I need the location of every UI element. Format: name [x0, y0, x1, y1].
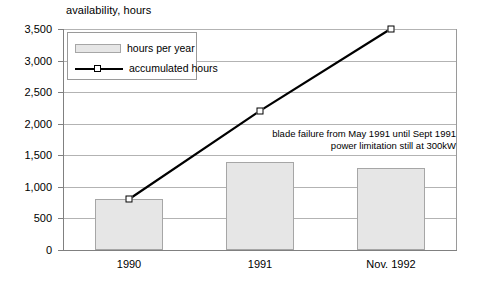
chart-legend: hours per year accumulated hours	[67, 32, 197, 80]
plot-left-axis-line	[63, 29, 64, 251]
legend-swatch-icon	[75, 44, 121, 53]
y-axis-tick-label: 1,000	[4, 181, 52, 193]
bar	[226, 162, 294, 250]
legend-square-marker-icon	[94, 65, 101, 72]
bar	[357, 168, 425, 250]
plot-bottom-axis-line	[63, 250, 457, 251]
legend-item-hours-per-year: hours per year	[75, 42, 195, 54]
y-axis-tick-label: 500	[4, 212, 52, 224]
y-axis-tick-label: 2,500	[4, 86, 52, 98]
data-point-marker	[387, 26, 394, 33]
chart-annotation: blade failure from May 1991 until Sept 1…	[272, 128, 456, 152]
annotation-line-2: power limitation still at 300kW	[272, 140, 456, 152]
y-axis-tick-label: 1,500	[4, 149, 52, 161]
data-point-marker	[256, 108, 263, 115]
legend-item-label: accumulated hours	[129, 62, 218, 74]
gridline	[63, 155, 457, 156]
chart-axis-title: availability, hours	[66, 4, 151, 16]
gridline	[63, 124, 457, 125]
plot-right-border	[456, 29, 457, 251]
chart-container: availability, hours 05001,0001,5002,0002…	[0, 0, 479, 288]
annotation-line-1: blade failure from May 1991 until Sept 1…	[272, 128, 456, 140]
data-point-marker	[125, 196, 132, 203]
y-axis-tick-label: 3,000	[4, 55, 52, 67]
gridline	[63, 29, 457, 30]
bar	[95, 199, 163, 250]
x-axis-tick-label: Nov. 1992	[366, 258, 415, 270]
legend-item-label: hours per year	[127, 42, 195, 54]
y-axis-tick-label: 2,000	[4, 118, 52, 130]
y-axis-tick-label: 0	[4, 244, 52, 256]
y-axis-tick-label: 3,500	[4, 23, 52, 35]
gridline	[63, 92, 457, 93]
x-axis-tick-label: 1990	[117, 258, 141, 270]
legend-item-accumulated-hours: accumulated hours	[75, 62, 218, 74]
x-axis-tick-label: 1991	[248, 258, 272, 270]
legend-line-icon	[75, 63, 123, 74]
